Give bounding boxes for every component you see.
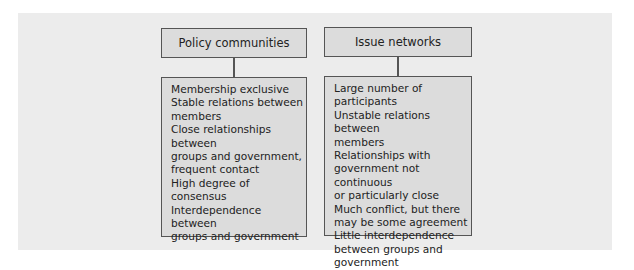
policy-communities-characteristics-box: Membership exclusive Stable relations be…: [161, 77, 307, 237]
list-line: groups and government,: [171, 150, 306, 163]
issue-networks-list: Large number of participants Unstable re…: [334, 82, 471, 270]
list-line: Little interdependence: [334, 229, 471, 242]
diagram-background-panel: [18, 13, 612, 250]
list-line: Close relationships between: [171, 123, 306, 150]
list-line: Large number of participants: [334, 82, 471, 109]
list-line: government not continuous: [334, 162, 471, 189]
list-line: members: [334, 136, 471, 149]
list-line: government: [334, 256, 471, 269]
issue-networks-title: Issue networks: [355, 35, 441, 49]
policy-communities-title: Policy communities: [178, 36, 289, 50]
issue-networks-header: Issue networks: [324, 27, 472, 57]
list-line: groups and government: [171, 230, 306, 243]
list-line: frequent contact: [171, 163, 306, 176]
list-line: Much conflict, but there: [334, 203, 471, 216]
list-line: Stable relations between: [171, 96, 306, 109]
list-line: Relationships with: [334, 149, 471, 162]
list-line: members: [171, 110, 306, 123]
list-line: High degree of consensus: [171, 177, 306, 204]
issue-networks-connector: [397, 56, 399, 76]
list-line: Membership exclusive: [171, 83, 306, 96]
list-line: Unstable relations between: [334, 109, 471, 136]
issue-networks-characteristics-box: Large number of participants Unstable re…: [324, 76, 472, 236]
policy-communities-connector: [233, 57, 235, 77]
list-line: Interdependence between: [171, 204, 306, 231]
list-line: or particularly close: [334, 189, 471, 202]
policy-communities-header: Policy communities: [161, 28, 307, 58]
policy-communities-list: Membership exclusive Stable relations be…: [171, 83, 306, 244]
list-line: may be some agreement: [334, 216, 471, 229]
list-line: between groups and: [334, 243, 471, 256]
